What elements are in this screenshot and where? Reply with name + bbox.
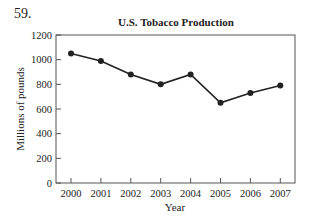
x-tick-label: 2007 xyxy=(270,188,291,199)
data-point xyxy=(218,100,224,106)
y-tick-label: 600 xyxy=(36,104,52,115)
x-tick-label: 2005 xyxy=(210,188,231,199)
x-tick-label: 2001 xyxy=(90,188,111,199)
plot-frame xyxy=(56,35,295,183)
x-tick-label: 2003 xyxy=(150,188,171,199)
x-tick-label: 2000 xyxy=(61,188,82,199)
data-point xyxy=(277,83,283,89)
y-tick-label: 1200 xyxy=(31,30,52,41)
data-point xyxy=(247,90,253,96)
data-point xyxy=(98,58,104,64)
chart-series xyxy=(68,51,283,106)
y-tick-label: 200 xyxy=(36,153,52,164)
y-tick-label: 1000 xyxy=(31,54,52,65)
data-point xyxy=(128,71,134,77)
data-point xyxy=(158,81,164,87)
y-axis-label: Millions of pounds xyxy=(14,67,26,151)
y-tick-label: 400 xyxy=(36,128,52,139)
x-tick-label: 2004 xyxy=(180,188,202,199)
x-axis-label: Year xyxy=(165,201,186,213)
x-tick-label: 2002 xyxy=(120,188,141,199)
y-tick-label: 800 xyxy=(36,79,52,90)
data-point xyxy=(68,51,74,57)
line-chart: 0200400600800100012002000200120022003200… xyxy=(0,0,309,217)
data-point xyxy=(188,71,194,77)
y-tick-label: 0 xyxy=(47,178,52,189)
x-tick-label: 2006 xyxy=(240,188,261,199)
